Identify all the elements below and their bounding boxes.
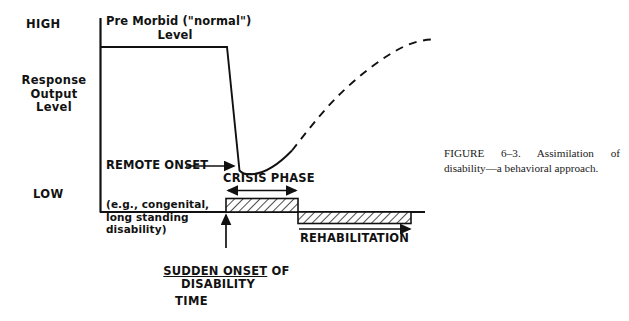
figure-container: HIGH LOW Response Output Level Pre Morbi…: [0, 0, 629, 321]
sudden-onset-of-text: OF: [267, 264, 289, 278]
y-axis-title: Response Output Level: [18, 74, 90, 115]
remote-onset-detail: (e.g., congenital, long standing disabil…: [106, 198, 209, 235]
y-axis-high-label: HIGH: [26, 18, 61, 32]
remote-onset-title: REMOTE ONSET: [106, 159, 209, 173]
y-axis-low-label: LOW: [33, 188, 64, 202]
crisis-phase-label: CRISIS PHASE: [223, 172, 315, 186]
response-curve-dashed: [292, 40, 431, 151]
x-axis-title: TIME: [175, 295, 208, 309]
rehabilitation-band: [298, 212, 411, 224]
rehabilitation-label: REHABILITATION: [300, 232, 409, 246]
pre-morbid-level-label: Pre Morbid ("normal") Level: [106, 15, 244, 42]
sudden-onset-of-disability-label: SUDDEN ONSET OFDISABILITY: [142, 251, 294, 305]
remote-onset-annotation: REMOTE ONSET (e.g., congenital, long sta…: [106, 133, 209, 262]
figure-caption: FIGURE 6–3. Assimilation of disability—a…: [444, 146, 620, 176]
sudden-onset-disability-text: DISABILITY: [181, 277, 255, 291]
crisis-phase-band: [226, 199, 298, 213]
sudden-onset-underlined-text: SUDDEN ONSET: [163, 264, 267, 278]
